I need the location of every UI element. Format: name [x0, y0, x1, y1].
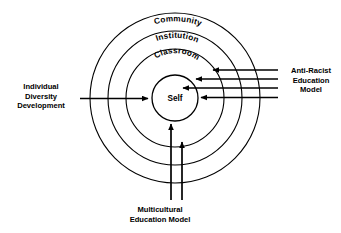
label-anti-racist-education-model: Anti-Racist Education Model: [282, 66, 340, 95]
label-line: Diversity: [4, 92, 78, 102]
label-line: Education Model: [101, 215, 219, 225]
label-line: Individual: [4, 82, 78, 92]
label-multicultural-education-model: Multicultural Education Model: [101, 205, 219, 224]
ring-label-community: Community: [153, 14, 203, 28]
label-individual-diversity-development: Individual Diversity Development: [4, 82, 78, 111]
label-line: Model: [282, 85, 340, 95]
ring-label-classroom: Classroom: [153, 46, 202, 62]
label-line: Education: [282, 76, 340, 86]
diagram-canvas: Community Institution Classroom Self Ind…: [0, 0, 341, 233]
label-line: Anti-Racist: [282, 66, 340, 76]
label-line: Multicultural: [101, 205, 219, 215]
ring-label-institution: Institution: [154, 31, 200, 45]
label-line: Development: [4, 101, 78, 111]
ring-label-self: Self: [167, 94, 182, 103]
diagram-graphic: Community Institution Classroom Self: [0, 0, 341, 233]
